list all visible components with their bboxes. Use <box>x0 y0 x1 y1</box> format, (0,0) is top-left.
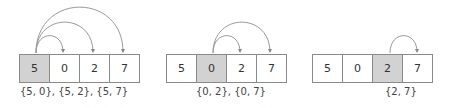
array-cell: 0 <box>342 54 373 83</box>
array-cell: 0 <box>49 54 80 83</box>
arc-arrow <box>213 36 240 53</box>
array-cell: 7 <box>109 54 140 83</box>
array-cell-highlighted: 5 <box>19 54 50 83</box>
arc-arrow <box>36 36 63 53</box>
array-cell: 5 <box>166 54 197 83</box>
arrowhead-icon <box>61 49 65 53</box>
array-cell: 5 <box>312 54 343 83</box>
array-cell: 7 <box>256 54 287 83</box>
array-cell-highlighted: 2 <box>372 54 403 83</box>
panel-1: 5 0 2 7 {5, 0}, {5, 2}, {5, 7} <box>19 0 144 108</box>
arcs-panel-3 <box>312 0 437 56</box>
arcs-panel-2 <box>166 0 291 56</box>
arc-arrow <box>390 36 417 53</box>
pairs-label: {0, 2}, {0, 7} <box>196 86 266 97</box>
array-cell: 2 <box>226 54 257 83</box>
arcs-panel-1 <box>19 0 144 56</box>
arc-arrow <box>36 22 93 53</box>
array-row: 5 0 2 7 <box>19 54 140 83</box>
array-row: 5 0 2 7 <box>312 54 433 83</box>
arc-arrow <box>213 22 270 53</box>
arc-arrow <box>36 7 123 53</box>
pairs-label: {5, 0}, {5, 2}, {5, 7} <box>20 86 128 97</box>
arrowhead-icon <box>121 49 125 53</box>
panel-2: 5 0 2 7 {0, 2}, {0, 7} <box>166 0 291 108</box>
array-row: 5 0 2 7 <box>166 54 287 83</box>
array-cell: 7 <box>402 54 433 83</box>
array-cell: 2 <box>79 54 110 83</box>
arrowhead-icon <box>91 49 95 53</box>
panel-3: 5 0 2 7 {2, 7} <box>312 0 437 108</box>
arrowhead-icon <box>415 49 419 53</box>
pairs-label: {2, 7} <box>385 86 417 97</box>
arrowhead-icon <box>268 49 272 53</box>
arrowhead-icon <box>238 49 242 53</box>
array-cell-highlighted: 0 <box>196 54 227 83</box>
